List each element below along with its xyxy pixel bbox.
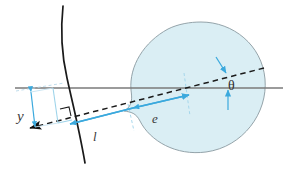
label-y: y [17, 108, 24, 125]
label-e: e [152, 111, 158, 127]
boundary-curve [62, 6, 85, 163]
diagram-canvas [0, 0, 290, 173]
label-theta: θ [228, 78, 235, 94]
scattering-diagram: y l e θ [0, 0, 290, 173]
label-l: l [93, 129, 97, 145]
upper-guide-dashed [16, 83, 64, 91]
right-angle-mark [60, 107, 71, 116]
